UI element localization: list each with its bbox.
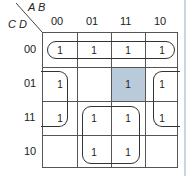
- col-label-10: 10: [154, 15, 166, 27]
- cell-01-01: [77, 67, 111, 101]
- col-label-11: 11: [120, 15, 131, 27]
- col-label-01: 01: [86, 15, 98, 27]
- kmap-grid: 1 1 1 1 1 1 1 1 1 1 1 1 1: [42, 32, 178, 168]
- cell-10-00: [43, 135, 77, 169]
- group-wrap-left: [41, 71, 68, 127]
- row-label-01: 01: [24, 77, 36, 89]
- cell-01-11: 1: [111, 67, 145, 101]
- row-label-00: 00: [24, 43, 36, 55]
- group-row-00: [47, 41, 175, 59]
- col-variable-label: A B: [28, 1, 45, 13]
- group-wrap-right: [153, 71, 180, 127]
- row-variable-label: C D: [8, 18, 27, 30]
- row-label-10: 10: [24, 145, 36, 157]
- col-label-00: 00: [51, 15, 63, 27]
- page-edge-line: [184, 0, 186, 176]
- cell-10-10: [145, 135, 179, 169]
- row-label-11: 11: [24, 111, 35, 123]
- group-center-2x2: [82, 106, 140, 164]
